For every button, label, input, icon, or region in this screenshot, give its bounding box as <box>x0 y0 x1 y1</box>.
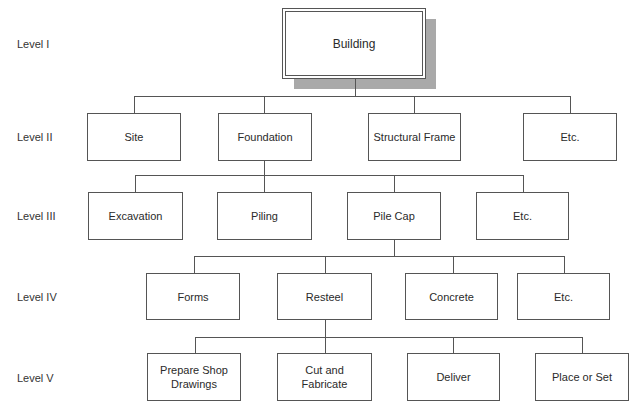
level-label-3: Level III <box>17 209 56 223</box>
connector <box>325 320 326 337</box>
node-piling[interactable]: Piling <box>217 192 312 240</box>
connector <box>582 337 583 353</box>
level-label-4: Level IV <box>17 290 57 304</box>
node-etc-level4[interactable]: Etc. <box>517 273 610 320</box>
node-site[interactable]: Site <box>87 113 181 161</box>
node-structural-frame[interactable]: Structural Frame <box>368 113 461 161</box>
connector <box>355 79 356 96</box>
node-etc-level2[interactable]: Etc. <box>523 113 617 161</box>
connector <box>134 96 571 97</box>
root-node-building[interactable]: Building <box>282 8 426 79</box>
node-cut-and-fabricate[interactable]: Cut and Fabricate <box>277 353 372 401</box>
node-etc-level3[interactable]: Etc. <box>476 192 569 240</box>
connector <box>135 175 524 176</box>
connector <box>325 337 326 353</box>
connector <box>414 96 415 113</box>
connector <box>195 337 583 338</box>
node-foundation[interactable]: Foundation <box>218 113 312 161</box>
node-excavation[interactable]: Excavation <box>88 192 183 240</box>
node-resteel[interactable]: Resteel <box>277 273 372 320</box>
node-concrete[interactable]: Concrete <box>405 273 498 320</box>
node-forms[interactable]: Forms <box>146 273 240 320</box>
connector <box>394 240 395 256</box>
connector <box>194 256 565 257</box>
node-deliver[interactable]: Deliver <box>407 353 500 401</box>
node-place-or-set[interactable]: Place or Set <box>535 353 629 401</box>
connector <box>453 256 454 273</box>
connector <box>325 256 326 273</box>
level-label-1: Level I <box>17 37 49 51</box>
connector <box>134 96 135 113</box>
level-label-5: Level V <box>17 371 54 385</box>
connector <box>394 175 395 192</box>
connector <box>135 175 136 192</box>
node-pile-cap[interactable]: Pile Cap <box>347 192 441 240</box>
connector <box>453 337 454 353</box>
connector <box>523 175 524 192</box>
connector <box>570 96 571 113</box>
connector <box>564 256 565 273</box>
level-label-2: Level II <box>17 130 52 144</box>
connector <box>194 256 195 273</box>
connector <box>264 96 265 113</box>
root-node-label: Building <box>285 11 423 76</box>
node-prepare-shop-drawings[interactable]: Prepare Shop Drawings <box>147 353 241 401</box>
connector <box>264 161 265 175</box>
connector <box>264 175 265 192</box>
connector <box>195 337 196 353</box>
